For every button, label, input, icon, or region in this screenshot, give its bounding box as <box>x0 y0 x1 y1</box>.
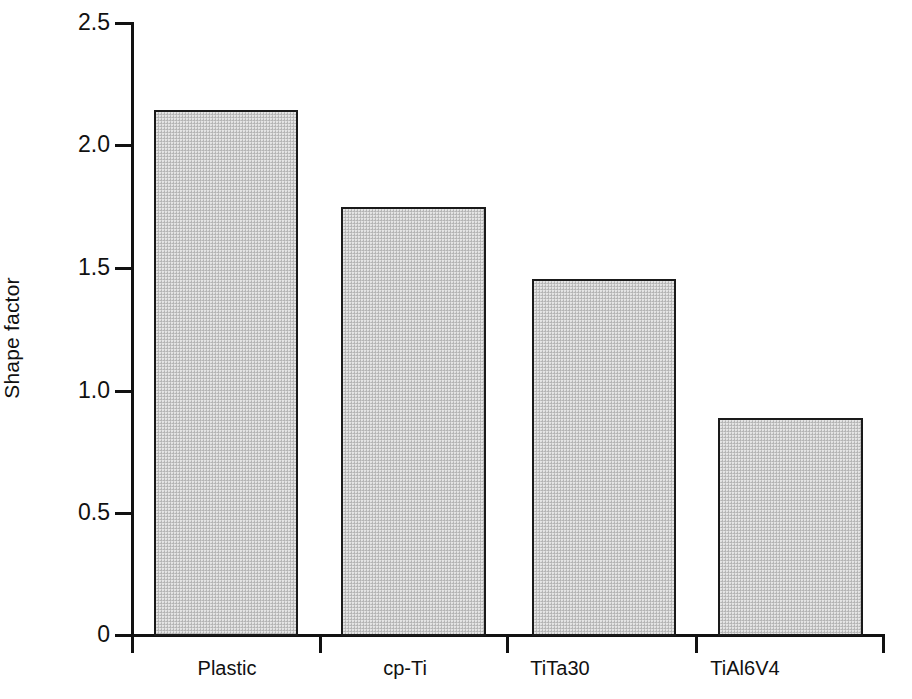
y-tick-0.5 <box>115 512 133 515</box>
y-tick-label-1.0: 1.0 <box>40 379 110 402</box>
bar-tial6v4 <box>718 418 863 636</box>
x-category-label-tial6v4: TiAl6V4 <box>673 657 817 679</box>
y-axis-title: Shape factor <box>0 268 24 408</box>
y-tick-label-2.5: 2.5 <box>40 11 110 34</box>
y-axis-line <box>131 22 134 638</box>
y-tick-1.5 <box>115 267 133 270</box>
y-tick-label-0: 0 <box>40 623 110 646</box>
x-category-label-tita30: TiTa30 <box>488 657 632 679</box>
x-tick-1 <box>319 634 322 653</box>
x-category-label-cp-ti: cp-Ti <box>333 657 477 679</box>
x-category-label-plastic: Plastic <box>155 657 299 679</box>
x-tick-3 <box>695 634 698 653</box>
y-tick-2.0 <box>115 144 133 147</box>
y-tick-1.0 <box>115 390 133 393</box>
bar-cp-ti <box>341 207 486 636</box>
y-tick-label-0.5: 0.5 <box>40 501 110 524</box>
y-tick-label-2.0: 2.0 <box>40 133 110 156</box>
y-tick-label-1.5: 1.5 <box>40 256 110 279</box>
x-tick-2 <box>506 634 509 653</box>
y-tick-2.5 <box>115 22 133 25</box>
bar-plastic <box>154 110 298 636</box>
x-tick-4 <box>882 634 885 653</box>
x-tick-0 <box>131 634 134 653</box>
bar-chart: Shape factor 2.5 2.0 1.5 1.0 0.5 0 Plast… <box>0 0 912 699</box>
bar-tita30 <box>532 279 676 636</box>
